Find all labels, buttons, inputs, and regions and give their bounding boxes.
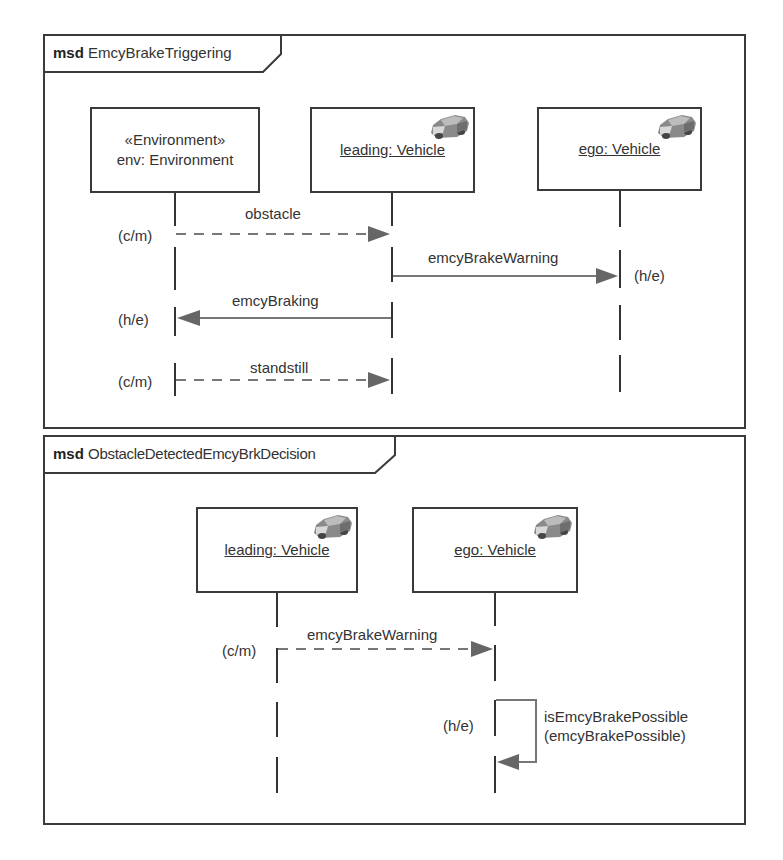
lifeline-ego[interactable]: ego: Vehicle (412, 507, 578, 593)
message-mode: (c/m) (118, 227, 152, 244)
frame-keyword: msd (53, 44, 84, 61)
frame-title: msd EmcyBrakeTriggering (53, 44, 232, 61)
car-icon (310, 511, 354, 541)
lifeline-label: ego: Vehicle (579, 139, 661, 159)
message-label-obstacle[interactable]: obstacle (245, 205, 301, 222)
frame-name: ObstacleDetectedEmcyBrkDecision (88, 445, 315, 462)
message-label-emcy-braking[interactable]: emcyBraking (232, 292, 319, 309)
message-label-standstill[interactable]: standstill (250, 359, 308, 376)
lifeline-leading[interactable]: leading: Vehicle (310, 107, 475, 193)
lifeline-label: env: Environment (117, 150, 234, 170)
frame-name: EmcyBrakeTriggering (88, 44, 232, 61)
lifeline-leading[interactable]: leading: Vehicle (196, 507, 358, 593)
message-mode: (h/e) (118, 311, 149, 328)
frame-keyword: msd (53, 445, 84, 462)
message-label-args: (emcyBrakePossible) (544, 727, 686, 744)
lifeline-ego[interactable]: ego: Vehicle (537, 107, 702, 191)
message-mode: (c/m) (222, 642, 256, 659)
lifeline-label: ego: Vehicle (454, 540, 536, 560)
lifeline-env[interactable]: «Environment» env: Environment (90, 107, 260, 193)
message-mode: (h/e) (634, 267, 665, 284)
message-mode: (c/m) (118, 373, 152, 390)
message-mode: (h/e) (443, 717, 474, 734)
lifeline-stereotype: «Environment» (125, 130, 226, 150)
message-label-emcy-brake-warning[interactable]: emcyBrakeWarning (428, 249, 558, 266)
lifeline-label: leading: Vehicle (340, 140, 445, 160)
car-icon (654, 111, 698, 141)
lifeline-label: leading: Vehicle (224, 540, 329, 560)
message-label-emcy-brake-warning[interactable]: emcyBrakeWarning (307, 626, 437, 643)
car-icon (427, 111, 471, 141)
message-label-is-emcy-brake-possible[interactable]: isEmcyBrakePossible (544, 708, 688, 725)
frame-title: msd ObstacleDetectedEmcyBrkDecision (53, 445, 315, 462)
car-icon (530, 511, 574, 541)
